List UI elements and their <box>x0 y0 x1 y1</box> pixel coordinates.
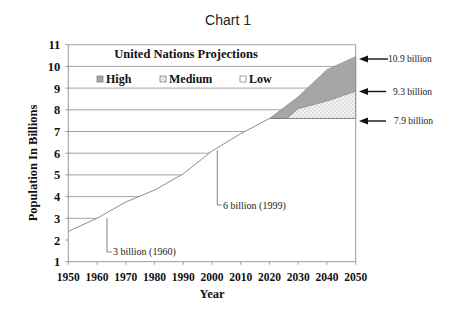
legend-title: United Nations Projections <box>114 47 258 61</box>
x-tick-label: 2000 <box>201 271 224 283</box>
y-tick-label: 1 <box>54 255 60 269</box>
legend-label-medium: Medium <box>169 72 212 86</box>
arrow-medium <box>359 88 386 95</box>
x-tick-label: 2010 <box>229 271 252 283</box>
y-tick-label: 9 <box>54 82 60 96</box>
y-tick-label: 10 <box>48 60 61 74</box>
y-tick-label: 6 <box>54 147 60 161</box>
legend-label-low: Low <box>249 72 272 86</box>
y-tick-label: 5 <box>54 168 60 182</box>
x-tick-label: 2040 <box>315 271 338 283</box>
y-tick-label: 7 <box>54 125 60 139</box>
x-tick-label: 1980 <box>143 271 166 283</box>
legend-label-high: High <box>106 72 132 86</box>
y-axis-label: Population In Billions <box>26 105 40 222</box>
x-axis-label: Year <box>200 287 225 301</box>
legend-swatch-medium <box>160 76 166 82</box>
chart-title: Chart 1 <box>205 12 251 28</box>
area-under-curve <box>68 118 355 261</box>
y-tick-label: 2 <box>54 234 60 248</box>
label-low-2050: 7.9 billion <box>394 116 433 126</box>
chart-canvas: Chart 1 12345678910111950196019701980199… <box>0 0 455 311</box>
y-tick-label: 4 <box>54 190 61 204</box>
projection-areas <box>68 57 355 262</box>
x-tick-label: 2050 <box>344 271 367 283</box>
arrow-high <box>359 56 388 63</box>
x-tick-label: 2020 <box>258 271 281 283</box>
callout-3-billion: 3 billion (1960) <box>113 246 176 258</box>
legend-swatch-low <box>240 76 246 82</box>
population-chart: Chart 1 12345678910111950196019701980199… <box>0 0 455 311</box>
legend-swatch-high <box>97 76 103 82</box>
arrow-low <box>359 118 386 125</box>
y-tick-label: 11 <box>48 38 60 52</box>
x-tick-label: 1960 <box>86 271 109 283</box>
x-tick-label: 2030 <box>287 271 310 283</box>
callout-6-billion: 6 billion (1999) <box>223 200 286 212</box>
x-tick-label: 1990 <box>172 271 195 283</box>
y-tick-label: 3 <box>54 212 60 226</box>
y-tick-label: 8 <box>54 103 60 117</box>
x-tick-label: 1950 <box>57 271 80 283</box>
label-high-2050: 10.9 billion <box>388 54 432 64</box>
x-tick-label: 1970 <box>114 271 137 283</box>
label-medium-2050: 9.3 billion <box>393 87 432 97</box>
